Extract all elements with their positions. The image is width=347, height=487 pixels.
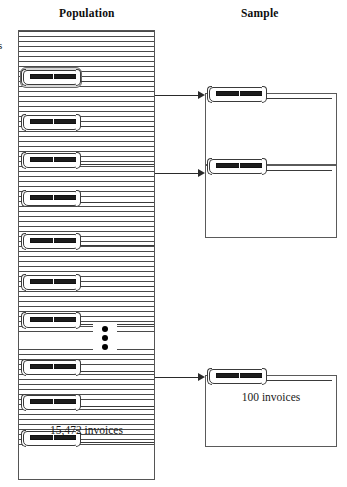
sample-count-label: 100 invoices xyxy=(205,391,337,403)
invoice-page xyxy=(209,87,265,102)
invoice-page xyxy=(23,313,79,328)
invoice-right-edge xyxy=(76,69,81,86)
sample-box-3 xyxy=(205,375,337,447)
sampling-arrow-1 xyxy=(155,91,205,100)
invoice-header-bar xyxy=(30,74,78,79)
invoice-header-bar xyxy=(30,157,78,162)
invoice-header-bar xyxy=(30,238,78,243)
invoice-right-edge xyxy=(262,158,267,175)
population-record-4 xyxy=(21,190,81,207)
invoice-tail-line xyxy=(80,164,154,165)
sample-record-2 xyxy=(207,158,267,175)
sample-record-1 xyxy=(207,86,267,103)
invoice-header-bar xyxy=(30,119,78,124)
invoice-right-edge xyxy=(262,368,267,385)
invoice-header-bar xyxy=(30,195,78,200)
clipped-edge-label: s xyxy=(0,39,2,51)
sample-record-3 xyxy=(207,368,267,385)
invoice-tail-line xyxy=(80,324,154,325)
invoice-right-edge xyxy=(76,312,81,329)
arrow-head xyxy=(198,91,205,99)
population-container xyxy=(18,30,155,480)
invoice-header-bar xyxy=(216,373,264,378)
population-record-6 xyxy=(21,274,81,291)
sample-box-1 xyxy=(205,93,337,165)
invoice-header-bar xyxy=(30,399,78,404)
population-record-8 xyxy=(21,359,81,376)
invoice-tail-line xyxy=(80,406,154,407)
invoice-page xyxy=(23,395,79,410)
population-record-5 xyxy=(21,233,81,250)
invoice-page xyxy=(23,275,79,290)
population-record-7 xyxy=(21,312,81,329)
invoice-tail-line xyxy=(80,126,154,127)
invoice-right-edge xyxy=(76,114,81,131)
invoice-tail-line xyxy=(80,202,154,203)
sampling-arrow-3 xyxy=(155,373,205,382)
invoice-tail-line xyxy=(266,380,332,381)
invoice-page xyxy=(23,360,79,375)
diagram-canvas: Population Sample s 15,472 invoices 100 … xyxy=(0,0,347,487)
population-column-heading: Population xyxy=(59,7,115,19)
ellipsis-dot xyxy=(102,326,108,332)
invoice-right-edge xyxy=(76,233,81,250)
invoice-tail-line xyxy=(80,371,154,372)
population-count-label: 15,472 invoices xyxy=(18,424,155,436)
invoice-header-bar xyxy=(216,163,264,168)
arrow-shaft xyxy=(155,95,199,96)
invoice-page xyxy=(209,369,265,384)
arrow-head xyxy=(198,373,205,381)
invoice-header-bar xyxy=(30,364,78,369)
population-record-3 xyxy=(21,152,81,169)
invoice-right-edge xyxy=(76,190,81,207)
invoice-header-bar xyxy=(30,317,78,322)
sample-box-2 xyxy=(205,165,337,238)
sampling-arrow-2 xyxy=(155,169,205,178)
invoice-right-edge xyxy=(76,394,81,411)
invoice-tail-line xyxy=(266,98,332,99)
invoice-page xyxy=(23,115,79,130)
ellipsis-dot xyxy=(102,344,108,350)
invoice-right-edge xyxy=(76,274,81,291)
ellipsis-dot xyxy=(102,335,108,341)
invoice-page xyxy=(23,191,79,206)
invoice-page xyxy=(23,70,79,85)
invoice-page xyxy=(23,234,79,249)
invoice-tail-line xyxy=(80,245,154,246)
sample-column-heading: Sample xyxy=(241,7,279,19)
arrow-shaft xyxy=(155,377,199,378)
invoice-right-edge xyxy=(76,359,81,376)
invoice-tail-line xyxy=(80,442,154,443)
invoice-header-bar xyxy=(30,279,78,284)
invoice-page xyxy=(23,153,79,168)
arrow-shaft xyxy=(155,173,199,174)
arrow-head xyxy=(198,169,205,177)
invoice-right-edge xyxy=(76,152,81,169)
invoice-right-edge xyxy=(262,86,267,103)
population-footer-area xyxy=(19,448,154,480)
vertical-ellipsis-icon xyxy=(93,323,117,353)
invoice-tail-line xyxy=(80,286,154,287)
population-record-2 xyxy=(21,114,81,131)
population-record-9 xyxy=(21,394,81,411)
invoice-tail-line xyxy=(266,170,332,171)
invoice-header-bar xyxy=(216,91,264,96)
population-record-1 xyxy=(21,69,81,86)
invoice-page xyxy=(209,159,265,174)
invoice-tail-line xyxy=(80,81,154,82)
